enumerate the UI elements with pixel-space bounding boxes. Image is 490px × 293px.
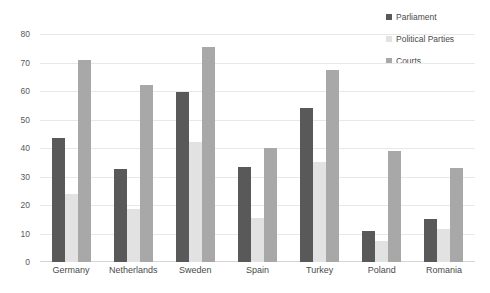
bar-parliament[interactable] (238, 167, 251, 262)
bar-courts[interactable] (450, 168, 463, 262)
y-axis-tick-label: 80 (21, 30, 30, 39)
bar-courts[interactable] (78, 60, 91, 262)
x-axis-category-label: Germany (40, 266, 102, 275)
bar-political-parties[interactable] (189, 142, 202, 262)
bar-parliament[interactable] (114, 169, 127, 262)
bar-courts[interactable] (326, 70, 339, 262)
bar-group (226, 34, 288, 262)
y-axis: 01020304050607080 (0, 34, 34, 262)
legend-swatch-icon (386, 14, 392, 20)
bar-courts[interactable] (202, 47, 215, 262)
bar-parliament[interactable] (300, 108, 313, 262)
bar-group (40, 34, 102, 262)
bar-group (351, 34, 413, 262)
bar-groups (40, 34, 475, 262)
bar-chart: ParliamentPolitical PartiesCourts 010203… (0, 0, 490, 293)
legend-item-label: Parliament (396, 13, 437, 22)
bar-courts[interactable] (140, 85, 153, 262)
bar-parliament[interactable] (52, 138, 65, 262)
x-axis: GermanyNetherlandsSwedenSpainTurkeyPolan… (40, 266, 475, 275)
bar-group (289, 34, 351, 262)
bar-group (102, 34, 164, 262)
bar-group (164, 34, 226, 262)
legend-item[interactable]: Parliament (386, 6, 490, 28)
bar-political-parties[interactable] (127, 209, 140, 262)
bar-political-parties[interactable] (437, 229, 450, 262)
bar-political-parties[interactable] (251, 218, 264, 262)
y-axis-tick-label: 0 (25, 258, 30, 267)
bar-courts[interactable] (264, 148, 277, 262)
y-axis-tick-label: 10 (21, 229, 30, 238)
x-axis-category-label: Romania (413, 266, 475, 275)
x-axis-category-label: Spain (226, 266, 288, 275)
bar-courts[interactable] (388, 151, 401, 262)
y-axis-tick-label: 70 (21, 58, 30, 67)
x-axis-category-label: Turkey (289, 266, 351, 275)
bar-political-parties[interactable] (313, 162, 326, 262)
y-axis-tick-label: 50 (21, 115, 30, 124)
x-axis-category-label: Sweden (164, 266, 226, 275)
x-axis-category-label: Netherlands (102, 266, 164, 275)
bar-parliament[interactable] (424, 219, 437, 262)
y-axis-tick-label: 20 (21, 201, 30, 210)
bar-political-parties[interactable] (65, 194, 78, 262)
bar-group (413, 34, 475, 262)
bar-parliament[interactable] (362, 231, 375, 262)
y-axis-tick-label: 60 (21, 87, 30, 96)
bar-parliament[interactable] (176, 92, 189, 262)
y-axis-tick-label: 40 (21, 144, 30, 153)
y-axis-tick-label: 30 (21, 172, 30, 181)
bar-political-parties[interactable] (375, 241, 388, 262)
x-axis-category-label: Poland (351, 266, 413, 275)
